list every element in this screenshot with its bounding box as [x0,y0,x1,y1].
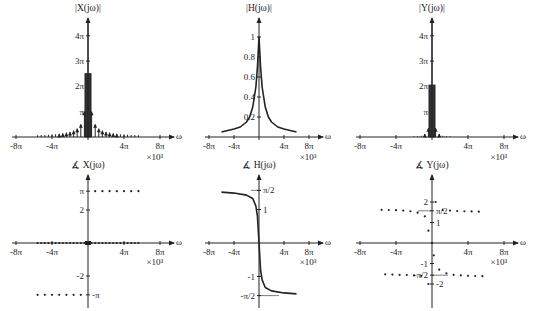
y-tick-label: 3π [58,56,84,66]
y-tick-label: 4π [58,31,84,41]
y-tick-label: 2 [58,205,84,215]
data-point [69,242,71,244]
data-point [44,242,46,244]
data-point [424,215,426,217]
data-point [76,242,78,244]
x-scale-label: ×10³ [491,152,508,162]
panel-title: |H(jω)| [234,3,284,13]
data-point [481,275,483,277]
data-point [391,273,393,275]
data-point [105,242,107,244]
data-point [116,242,118,244]
y-tick-label: π/2 [263,185,275,195]
omega-axis-label: ω [176,131,182,141]
data-point [123,242,125,244]
x-scale-label: ×10³ [147,152,164,162]
x-tick-label: -8π [200,141,218,151]
data-point [409,210,411,212]
data-point [395,209,397,211]
data-point [417,212,419,214]
data-point [51,242,53,244]
data-point [73,242,75,244]
x-tick-label: 4π [115,141,133,151]
data-point [37,242,39,244]
data-point [80,294,82,296]
data-point [399,274,401,276]
data-point [449,210,451,212]
x-tick-label: 8π [300,247,318,257]
data-point [460,274,462,276]
data-point [55,242,57,244]
data-point [80,242,82,244]
data-point [137,190,139,192]
data-point [388,209,390,211]
data-point [109,242,111,244]
data-point [58,242,60,244]
panel-title: ∡ Y(jω) [407,160,457,170]
figure-canvas [0,0,536,311]
y-tick-label: 0.2 [229,112,255,122]
data-point [58,294,60,296]
data-point [471,210,473,212]
data-point [47,242,49,244]
data-point [116,190,118,192]
data-point [134,242,136,244]
data-point [463,210,465,212]
y-tick-label: 2π [58,81,84,91]
x-tick-label: -4π [43,141,61,151]
x-tick-label: 8π [300,141,318,151]
data-point [65,242,67,244]
panel-mag_H [205,18,323,140]
y-tick-label: π [58,107,84,117]
data-point [467,275,469,277]
x-tick-label: -8π [351,141,369,151]
x-tick-label: -4π [43,247,61,257]
data-point [130,190,132,192]
y-tick-label: 4π [402,31,428,41]
data-point [62,242,64,244]
y-tick-label: π [58,186,84,196]
x-tick-label: 8π [151,141,169,151]
panel-title: ∡ X(jω) [63,160,113,170]
y-tick-label: -1 [229,272,255,282]
x-tick-label: 8π [495,141,513,151]
x-tick-label: 8π [151,247,169,257]
omega-axis-label: ω [325,131,331,141]
x-tick-label: -4π [225,247,243,257]
data-point [44,294,46,296]
y-tick-label: 1 [436,218,441,228]
y-tick-label: -π/2 [402,270,428,280]
x-tick-label: 4π [459,141,477,151]
y-tick-label: 0.6 [229,72,255,82]
data-point [456,210,458,212]
x-tick-label: 4π [115,247,133,257]
data-point [427,283,429,285]
x-scale-label: ×10³ [491,257,508,267]
panel-phase_X [12,175,174,308]
data-point [101,190,103,192]
x-tick-label: 4π [275,141,293,151]
data-point [37,294,39,296]
data-point [98,242,100,244]
x-tick-label: -4π [387,141,405,151]
x-tick-label: -8π [200,247,218,257]
data-point [433,254,435,256]
data-point [474,275,476,277]
data-point [123,190,125,192]
y-tick-label: 2π [402,81,428,91]
data-point [40,242,42,244]
y-tick-label: -2 [58,271,84,281]
data-point [130,242,132,244]
data-point [478,211,480,213]
y-tick-label: 1 [263,205,268,215]
data-point [453,274,455,276]
data-point [94,190,96,192]
x-tick-label: 4π [459,247,477,257]
y-tick-label: π/2 [436,206,448,216]
x-scale-label: ×10³ [147,257,164,267]
x-tick-label: -8π [7,247,25,257]
data-point [94,242,96,244]
data-point [112,242,114,244]
y-tick-label: -π/2 [229,291,255,301]
y-tick-label: 0.8 [229,52,255,62]
